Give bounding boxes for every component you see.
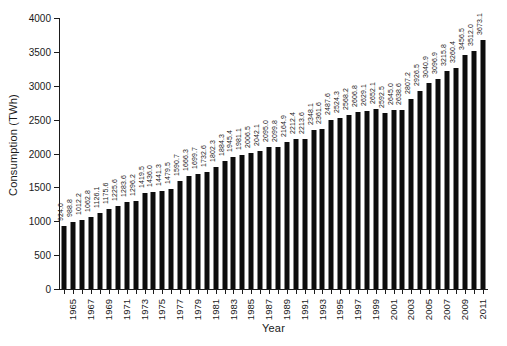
bar[interactable]	[106, 209, 111, 289]
y-axis-tick-label: 3500	[29, 46, 51, 57]
bar-group[interactable]: 1062.8	[87, 18, 96, 289]
bar[interactable]	[89, 217, 94, 289]
bar-group[interactable]: 2638.6	[398, 18, 407, 289]
bar[interactable]	[62, 226, 67, 289]
bar[interactable]	[222, 161, 227, 289]
bar-group[interactable]: 2006.5	[247, 18, 256, 289]
bar[interactable]	[436, 79, 441, 289]
bar[interactable]	[142, 193, 147, 289]
bar[interactable]	[249, 153, 254, 289]
bar-value-label: 2099.8	[271, 120, 278, 142]
bar-group[interactable]: 1175.6	[104, 18, 113, 289]
bar[interactable]	[124, 202, 129, 289]
bar-group[interactable]: 2361.6	[318, 18, 327, 289]
bar-group[interactable]: 2095.0	[265, 18, 274, 289]
bar[interactable]	[373, 109, 378, 289]
bar[interactable]	[284, 142, 289, 289]
bar[interactable]	[80, 220, 85, 289]
bar[interactable]	[178, 181, 183, 289]
bar-group[interactable]: 1012.2	[78, 18, 87, 289]
bar-group[interactable]: 1441.3	[158, 18, 167, 289]
bar-group[interactable]: 1945.4	[229, 18, 238, 289]
bar[interactable]	[391, 110, 396, 289]
bar-group[interactable]: 2652.1	[371, 18, 380, 289]
bar[interactable]	[195, 174, 200, 289]
bar-group[interactable]: 1283.6	[122, 18, 131, 289]
bar[interactable]	[471, 51, 476, 289]
bar-group[interactable]: 1225.6	[113, 18, 122, 289]
bar-group[interactable]: 1884.3	[220, 18, 229, 289]
bar-group[interactable]: 2645.0	[389, 18, 398, 289]
x-axis-tick-mark	[118, 289, 119, 294]
bar[interactable]	[338, 118, 343, 289]
bar-group[interactable]: 2164.9	[282, 18, 291, 289]
x-axis-tick-mark	[269, 289, 270, 294]
bar-value-label: 3040.9	[422, 56, 429, 78]
x-axis-tick-label: 1975	[157, 299, 167, 320]
bar[interactable]	[382, 113, 387, 289]
x-axis-tick-mark	[349, 289, 350, 294]
bar[interactable]	[311, 130, 316, 289]
bar-group[interactable]: 2629.1	[362, 18, 371, 289]
bar[interactable]	[133, 201, 138, 289]
bar-value-label: 1062.8	[84, 190, 91, 212]
bar-value-label: 2164.9	[280, 115, 287, 137]
bar-group[interactable]: 1419.5	[140, 18, 149, 289]
bar[interactable]	[169, 189, 174, 289]
bar[interactable]	[480, 40, 485, 289]
bar-group[interactable]: 924.0	[60, 18, 69, 289]
bar[interactable]	[356, 112, 361, 289]
bar[interactable]	[462, 55, 467, 289]
bar-group[interactable]: 2213.6	[300, 18, 309, 289]
bar-group[interactable]: 2099.8	[274, 18, 283, 289]
bar[interactable]	[115, 206, 120, 289]
bar-group[interactable]: 2807.2	[407, 18, 416, 289]
bar[interactable]	[364, 111, 369, 289]
bar[interactable]	[453, 68, 458, 289]
bar[interactable]	[240, 155, 245, 289]
bar[interactable]	[293, 139, 298, 289]
bar[interactable]	[231, 157, 236, 289]
bar[interactable]	[347, 115, 352, 289]
bar-group[interactable]: 2568.2	[345, 18, 354, 289]
bar-group[interactable]: 1296.2	[131, 18, 140, 289]
bar-group[interactable]: 1126.1	[96, 18, 105, 289]
bar[interactable]	[151, 192, 156, 289]
bar[interactable]	[275, 147, 280, 289]
bar[interactable]	[302, 139, 307, 289]
bar[interactable]	[258, 151, 263, 289]
bar-group[interactable]: 2487.6	[327, 18, 336, 289]
bar-group[interactable]: 3512.0	[469, 18, 478, 289]
bar[interactable]	[98, 213, 103, 289]
bar[interactable]	[400, 110, 405, 289]
bar[interactable]	[213, 167, 218, 289]
bar-value-label: 1436.0	[146, 165, 153, 187]
bar-group[interactable]: 1436.0	[149, 18, 158, 289]
bar[interactable]	[427, 83, 432, 289]
bar-value-label: 1884.3	[218, 134, 225, 156]
bar[interactable]	[444, 71, 449, 289]
bar[interactable]	[204, 172, 209, 289]
bar-group[interactable]: 2606.8	[354, 18, 363, 289]
bar-group[interactable]: 2524.3	[336, 18, 345, 289]
bar[interactable]	[418, 91, 423, 289]
bar[interactable]	[186, 176, 191, 289]
bar-group[interactable]: 2042.1	[256, 18, 265, 289]
bar[interactable]	[409, 99, 414, 289]
bar-group[interactable]: 3260.4	[451, 18, 460, 289]
bar-group[interactable]: 1981.1	[238, 18, 247, 289]
bar-value-label: 3512.0	[467, 24, 474, 46]
bar-group[interactable]: 2592.5	[380, 18, 389, 289]
bar[interactable]	[329, 120, 334, 289]
bar-value-label: 1945.4	[226, 130, 233, 152]
bar[interactable]	[320, 129, 325, 289]
bar-group[interactable]: 2212.4	[291, 18, 300, 289]
bar-group[interactable]: 988.8	[69, 18, 78, 289]
bar-group[interactable]: 3456.5	[460, 18, 469, 289]
bar[interactable]	[267, 147, 272, 289]
bar-group[interactable]: 2348.1	[309, 18, 318, 289]
bar-group[interactable]: 3673.1	[478, 18, 487, 289]
bar-value-label: 2807.2	[404, 72, 411, 94]
bar[interactable]	[71, 222, 76, 289]
bar[interactable]	[160, 191, 165, 289]
